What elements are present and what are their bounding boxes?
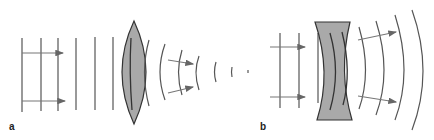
panel-label-a: a <box>9 121 15 132</box>
converging-wavefronts <box>145 40 249 106</box>
optics-diagram <box>0 0 434 140</box>
incident-arrows-b <box>270 47 305 97</box>
panel-b <box>270 10 423 130</box>
biconvex-lens <box>122 21 146 124</box>
panel-label-b: b <box>260 121 266 132</box>
diverging-wavefronts <box>359 10 423 130</box>
panel-a <box>22 21 248 124</box>
biconcave-lens <box>315 22 352 120</box>
